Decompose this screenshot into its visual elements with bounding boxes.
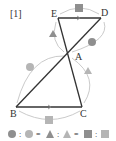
arc-AB (17, 56, 64, 103)
ratio-colon: : (95, 130, 97, 139)
square-light-icon (101, 130, 109, 138)
triangle-similarity-diagram: [1] E D A B C : = : = : (0, 0, 116, 141)
square-mark-light-icon (45, 116, 53, 124)
equals-sign: = (74, 130, 79, 139)
segment-EC (58, 18, 82, 107)
circle-mark-dark-icon (88, 38, 96, 46)
point-label-A: A (75, 51, 83, 62)
equals-sign: = (36, 130, 41, 139)
ratio-colon: : (19, 130, 21, 139)
triangle-dark-icon (46, 130, 54, 138)
problem-label: [1] (10, 8, 22, 19)
square-dark-icon (84, 130, 92, 138)
arc-DA (72, 22, 105, 52)
circle-dark-icon (8, 130, 16, 138)
point-label-C: C (80, 108, 87, 119)
ratio-legend: : = : = : (8, 130, 109, 139)
point-label-B: B (10, 108, 17, 119)
circle-light-icon (25, 130, 33, 138)
circle-mark-light-icon (26, 63, 34, 71)
square-mark-dark-icon (75, 4, 83, 12)
ratio-colon: : (57, 130, 59, 139)
triangle-mark-dark-icon (49, 30, 57, 37)
point-label-E: E (51, 8, 57, 19)
triangle-light-icon (63, 130, 71, 138)
point-label-D: D (101, 7, 108, 18)
